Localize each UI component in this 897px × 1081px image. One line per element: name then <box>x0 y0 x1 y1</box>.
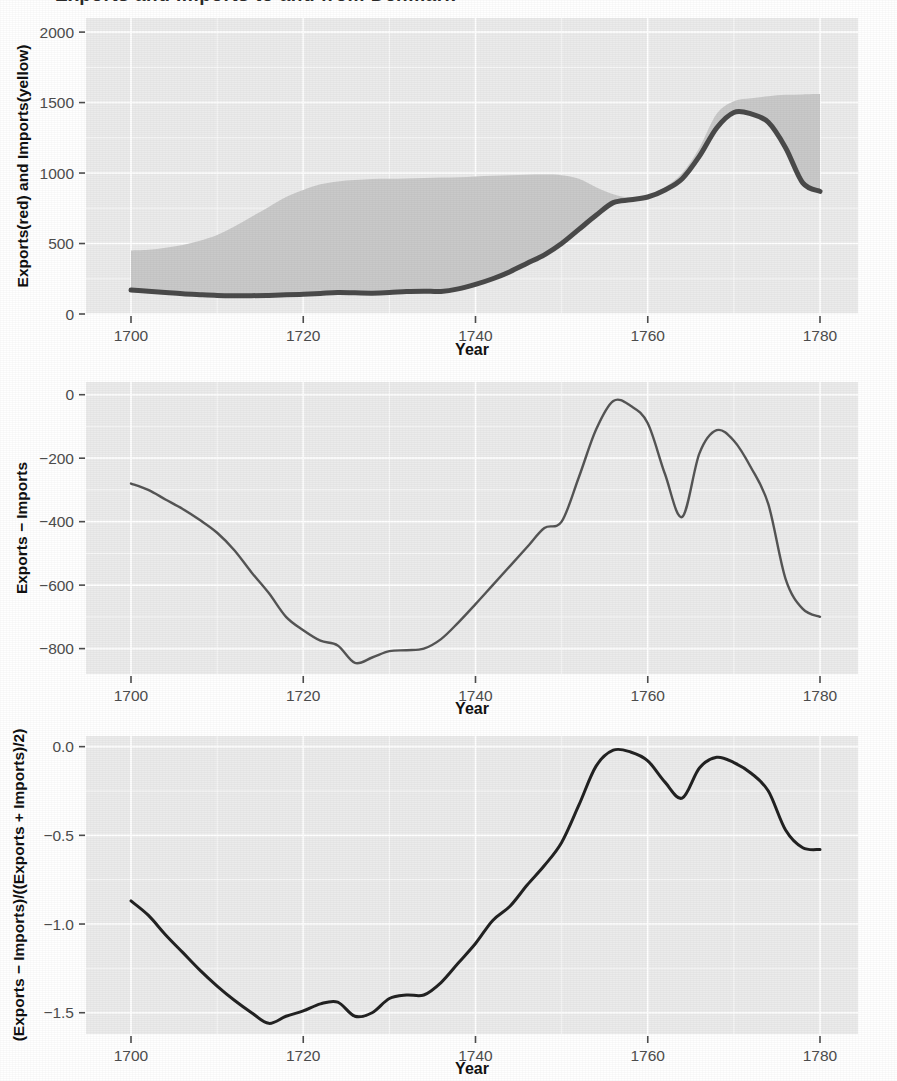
p3-y-tick-label: −1.0 <box>43 916 74 933</box>
p2-y-tick-label: −600 <box>39 577 74 594</box>
p3-y-tick-label: −1.5 <box>43 1004 74 1021</box>
panel-relative-balance: 0.0−0.5−1.0−1.5 17001720174017601780 Yea… <box>0 722 897 1081</box>
p1-y-tick-label: 500 <box>48 235 74 252</box>
p2-x-tick-label: 1780 <box>803 687 838 704</box>
panel-1-y-axis-title: Exports(red) and Imports(yellow) <box>14 45 31 288</box>
p1-y-tick-label: 1000 <box>40 165 75 182</box>
panel-1-svg: 0500100015002000 17001720174017601780 Ye… <box>0 0 897 362</box>
p3-y-tick-label: 0.0 <box>52 738 74 755</box>
panel-2-x-axis-title: Year <box>455 700 489 717</box>
p3-x-tick-label: 1700 <box>114 1047 149 1064</box>
p2-x-tick-label: 1700 <box>114 687 149 704</box>
p2-x-tick-label: 1760 <box>631 687 666 704</box>
p2-y-tick-label: −400 <box>39 513 74 530</box>
panel-3-y-axis-title: (Exports − Imports)/((Exports + Imports)… <box>10 729 27 1042</box>
p2-y-tick-label: 0 <box>65 386 74 403</box>
panel-2-svg: 0−200−400−600−800 17001720174017601780 Y… <box>0 362 897 722</box>
p3-y-tick-label: −0.5 <box>43 827 74 844</box>
panel-exports-imports: 0500100015002000 17001720174017601780 Ye… <box>0 0 897 362</box>
p3-x-tick-label: 1780 <box>803 1047 838 1064</box>
panel-1-x-axis-ticks: 17001720174017601780 <box>114 316 838 344</box>
panel-3-svg: 0.0−0.5−1.0−1.5 17001720174017601780 Yea… <box>0 722 897 1081</box>
panel-3-x-axis-title: Year <box>455 1060 489 1077</box>
panel-2-background <box>86 382 858 674</box>
figure-root: Exports and Imports to and from Denmark … <box>0 0 897 1081</box>
panel-3-background <box>86 736 858 1034</box>
p3-x-tick-label: 1760 <box>631 1047 666 1064</box>
p2-y-tick-label: −200 <box>39 450 74 467</box>
p1-x-tick-label: 1780 <box>803 327 838 344</box>
p1-y-tick-label: 1500 <box>40 94 75 111</box>
p1-x-tick-label: 1700 <box>114 327 149 344</box>
p1-x-tick-label: 1760 <box>631 327 666 344</box>
p3-x-tick-label: 1720 <box>286 1047 321 1064</box>
panel-3-y-axis-ticks: 0.0−0.5−1.0−1.5 <box>43 738 85 1021</box>
p1-y-tick-label: 2000 <box>40 24 75 41</box>
panel-trade-balance: 0−200−400−600−800 17001720174017601780 Y… <box>0 362 897 722</box>
panel-1-x-axis-title: Year <box>455 341 489 358</box>
p2-y-tick-label: −800 <box>39 640 74 657</box>
panel-2-y-axis-ticks: 0−200−400−600−800 <box>39 386 85 657</box>
p1-y-tick-label: 0 <box>65 306 74 323</box>
panel-1-y-axis-ticks: 0500100015002000 <box>40 24 85 323</box>
p2-x-tick-label: 1720 <box>286 687 321 704</box>
p1-x-tick-label: 1720 <box>286 327 321 344</box>
panel-2-y-axis-title: Exports − Imports <box>13 462 30 594</box>
